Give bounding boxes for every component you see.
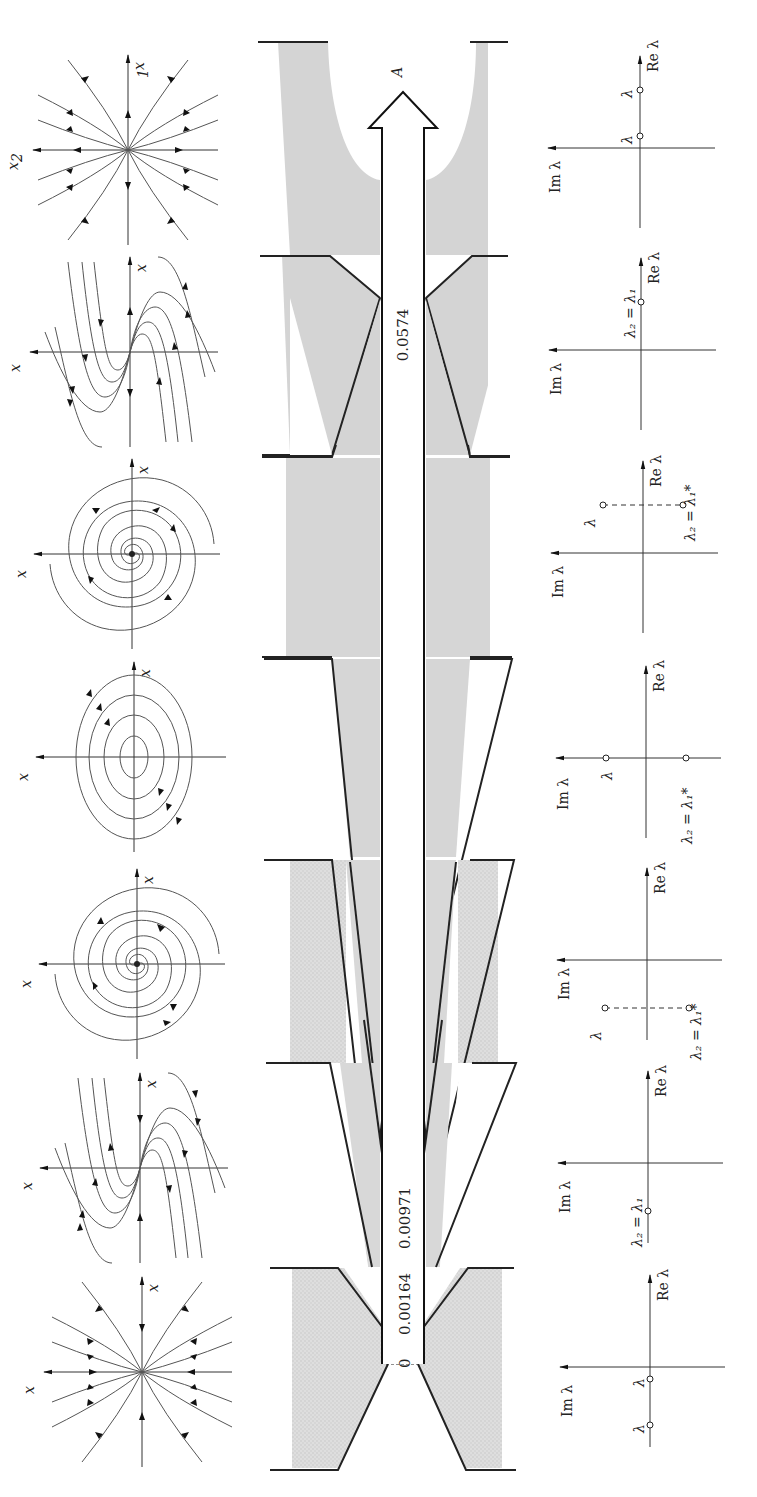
svg-text:1: 1 — [135, 69, 151, 78]
svg-text:x: x — [21, 1386, 37, 1394]
svg-text:x: x — [15, 773, 31, 781]
eigen-plane-1: Re λ Im λ λ λ — [547, 40, 715, 228]
svg-text:Im λ: Im λ — [547, 161, 563, 193]
eigen-plane-2: Re λ Im λ λ₂ = λ₁ — [548, 252, 716, 430]
eigen-plane-3: Re λ Im λ λ λ₂ = λ₁* — [550, 455, 718, 633]
svg-text:x: x — [135, 466, 151, 474]
svg-text:Im λ: Im λ — [559, 1385, 575, 1417]
phase-portrait-2: x x — [7, 257, 218, 447]
svg-text:Im λ: Im λ — [556, 968, 572, 1000]
parameter-label: A — [389, 67, 405, 79]
value-0.00164: 0.00164 — [396, 1273, 414, 1335]
svg-text:x: x — [137, 669, 153, 677]
svg-text:λ: λ — [599, 771, 615, 781]
svg-text:x: x — [140, 876, 156, 884]
svg-text:x: x — [7, 364, 23, 372]
svg-text:2: 2 — [9, 153, 25, 163]
value-0.0574: 0.0574 — [394, 309, 412, 362]
phase-portrait-4: x x — [15, 662, 226, 852]
svg-text:λ: λ — [619, 89, 635, 99]
eigen-plane-7: Re λ Im λ λ λ — [559, 1269, 725, 1447]
bifurcation-figure: A 0 0.00164 0.00971 0.0574 x 1 x 2 — [0, 0, 757, 1497]
svg-text:x: x — [133, 264, 149, 272]
svg-text:λ: λ — [588, 1031, 604, 1041]
svg-text:Re λ: Re λ — [651, 660, 667, 692]
svg-text:x: x — [131, 62, 147, 70]
svg-text:Re λ: Re λ — [648, 455, 664, 487]
svg-text:λ₂ = λ₁: λ₂ = λ₁ — [622, 288, 638, 339]
shade-row1 — [278, 42, 380, 255]
svg-text:Im λ: Im λ — [557, 1181, 573, 1213]
phase-portrait-3: x x — [13, 459, 220, 649]
phase-portrait-5: x x — [18, 869, 225, 1059]
eigen-plane-5: Re λ Im λ λ λ₂ = λ₁* — [556, 862, 722, 1061]
svg-text:λ₂ = λ₁: λ₂ = λ₁ — [629, 1197, 645, 1248]
svg-text:x: x — [13, 570, 29, 578]
svg-text:x: x — [145, 1284, 161, 1292]
svg-text:Im λ: Im λ — [548, 363, 564, 395]
phase-portrait-1: x 1 x 2 — [5, 55, 218, 245]
parameter-strip: A 0 0.00164 0.00971 0.0574 — [258, 42, 516, 1470]
svg-text:Im λ: Im λ — [550, 566, 566, 598]
shade-row1-right — [426, 42, 488, 255]
svg-text:λ₂ = λ₁*: λ₂ = λ₁* — [688, 1003, 704, 1061]
phase-portrait-6: x x — [19, 1073, 228, 1263]
phase-portrait-7: x x — [21, 1277, 232, 1467]
svg-text:λ: λ — [631, 1378, 647, 1388]
eigen-plane-6: Re λ Im λ λ₂ = λ₁ — [557, 1065, 723, 1248]
svg-text:λ₂ = λ₁*: λ₂ = λ₁* — [679, 787, 695, 845]
svg-text:Im λ: Im λ — [555, 778, 571, 810]
svg-text:x: x — [5, 162, 21, 170]
svg-text:λ: λ — [631, 1424, 647, 1434]
svg-text:Re λ: Re λ — [645, 40, 661, 72]
svg-text:λ₂ = λ₁*: λ₂ = λ₁* — [682, 484, 698, 542]
svg-text:Re λ: Re λ — [646, 252, 662, 284]
svg-text:x: x — [143, 1080, 159, 1088]
svg-text:λ: λ — [619, 135, 635, 145]
svg-text:Re λ: Re λ — [655, 1269, 671, 1301]
svg-text:λ: λ — [582, 518, 598, 528]
value-0.00971: 0.00971 — [396, 1187, 414, 1249]
eigen-plane-4: Re λ Im λ λ λ₂ = λ₁* — [555, 660, 721, 845]
svg-text:x: x — [19, 1182, 35, 1190]
value-0: 0 — [396, 1358, 414, 1368]
svg-text:Re λ: Re λ — [652, 862, 668, 894]
svg-text:Re λ: Re λ — [653, 1065, 669, 1097]
svg-text:x: x — [18, 980, 34, 988]
